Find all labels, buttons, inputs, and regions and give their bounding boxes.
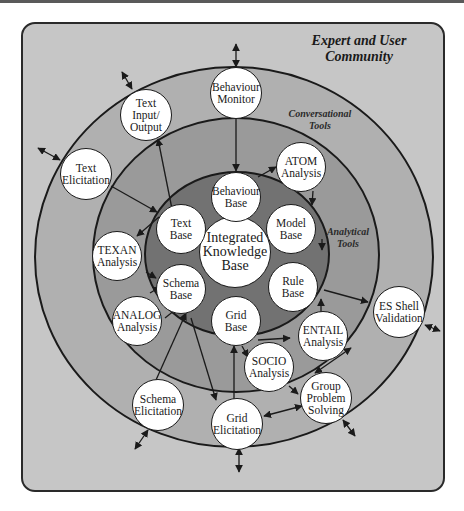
entail-analysis-node[interactable]: ENTAIL Analysis [298,311,348,361]
model-base-node[interactable]: Model Base [266,204,316,254]
schema-base-node[interactable]: Schema Base [156,264,206,314]
es-shell-validation-node[interactable]: ES Shell Validation [373,286,425,338]
group-problem-solving-node[interactable]: Group Problem Solving [300,372,352,424]
text-base-node[interactable]: Text Base [156,204,206,254]
analytical-tools-label: Analytical Tools [318,226,378,250]
grid-base-node[interactable]: Grid Base [211,296,261,346]
analog-analysis-node[interactable]: ANALOG Analysis [112,296,162,346]
conversational-tools-label: Conversational Tools [270,108,370,132]
behaviour-base-node[interactable]: Behaviour Base [211,172,261,222]
rule-base-node[interactable]: Rule Base [268,262,318,312]
texan-analysis-node[interactable]: TEXAN Analysis [92,231,142,281]
schema-elicitation-node[interactable]: Schema Elicitation [132,379,184,431]
expert-user-community-label: Expert and User Community [284,33,434,65]
behaviour-monitor-node[interactable]: Behaviour Monitor [210,67,262,119]
text-input-output-node[interactable]: Text Input/ Output [120,89,172,141]
text-elicitation-node[interactable]: Text Elicitation [60,148,112,200]
atom-analysis-node[interactable]: ATOM Analysis [276,142,326,192]
integrated-knowledge-base-node[interactable]: Integrated Knowledge Base [199,216,271,288]
socio-analysis-node[interactable]: SOCIO Analysis [244,342,294,392]
grid-elicitation-node[interactable]: Grid Elicitation [211,398,263,450]
